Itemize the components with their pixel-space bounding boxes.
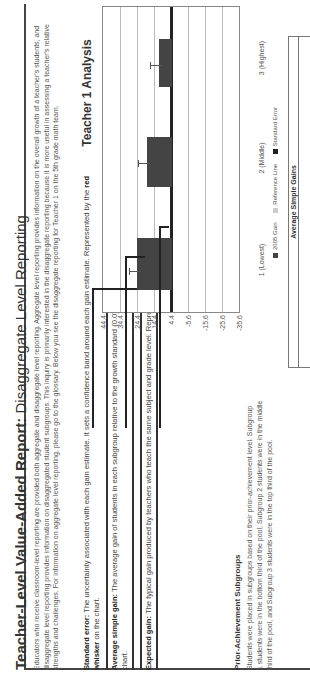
legend-label: 2005 Gain xyxy=(272,222,278,250)
bar-middle xyxy=(147,137,172,187)
arrow-average-gain xyxy=(125,258,127,428)
whisker-highest xyxy=(150,65,162,66)
whisker-lowest xyxy=(129,271,141,272)
arrow-average-gain-vertical xyxy=(125,256,145,258)
legend-label: Reference Line xyxy=(272,164,278,205)
whisker-cap xyxy=(129,268,130,275)
legend-swatch xyxy=(273,149,278,154)
definition-end: on the chart. xyxy=(92,597,101,641)
chart-legend: 2005 Gain Reference Line Standard Error xyxy=(272,99,278,258)
arrow-expected-gain-vertical xyxy=(159,226,169,228)
y-tick: 44.4 xyxy=(100,315,107,350)
y-tick: 14.4 xyxy=(151,315,158,350)
title-bold: Teacher-Level Value-Added Report: xyxy=(12,418,29,670)
gridline xyxy=(222,7,223,312)
legend-reference: Reference Line xyxy=(272,164,278,213)
arrow-standard-error-vertical xyxy=(92,288,137,290)
y-tick: 24.4 xyxy=(134,315,141,350)
y-tick: -15.6 xyxy=(202,315,209,350)
x-label-highest: 3 (Highest) xyxy=(258,28,265,88)
y-tick: -25.6 xyxy=(219,315,226,350)
whisker-cap xyxy=(138,160,139,167)
term: Average simple gain: xyxy=(110,594,119,670)
gridline xyxy=(205,7,206,312)
term: Standard error: xyxy=(82,615,91,670)
legend-stderr: Standard Error xyxy=(272,107,278,154)
bar-lowest xyxy=(137,238,172,290)
y-tick: 34.4 xyxy=(117,315,124,350)
title-regular: Disaggregate Level Reporting xyxy=(12,215,29,418)
rotated-page: Teacher-Level Value-Added Report: Disagg… xyxy=(0,0,310,678)
prior-achievement-title: Prior-Achievement Subgroups xyxy=(233,554,242,670)
page-title: Teacher-Level Value-Added Report: Disagg… xyxy=(12,215,29,670)
arrow-expected-gain xyxy=(159,228,161,428)
whisker-middle xyxy=(138,163,150,164)
chart-plot-area xyxy=(102,6,240,313)
whisker-cap xyxy=(150,62,151,69)
intro-paragraph: Educators who receive classroom-level re… xyxy=(32,15,61,670)
y-tick: -35.6 xyxy=(236,315,243,350)
gridline xyxy=(120,7,121,312)
chart-title: Teacher 1 Analysis xyxy=(80,13,94,173)
y-tick: -5.6 xyxy=(185,315,192,350)
table-title: Average Simple Gains xyxy=(289,37,299,367)
bar-highest xyxy=(159,39,172,87)
definition: The uncertainty associated with each gai… xyxy=(82,188,91,615)
legend-swatch xyxy=(273,208,278,213)
legend-swatch xyxy=(273,253,278,258)
legend-gain: 2005 Gain xyxy=(272,222,278,258)
arrow-standard-error xyxy=(92,290,94,428)
x-label-middle: 2 (Middle) xyxy=(258,128,265,188)
prior-achievement-text: Students were placed in subgroups based … xyxy=(245,400,275,670)
gridline xyxy=(188,7,189,312)
x-label-lowest: 1 (Lowest) xyxy=(258,230,265,290)
average-simple-gains-table: Average Simple Gains xyxy=(288,36,310,368)
y-tick: 4.4 xyxy=(168,315,175,350)
term: Expected gain: xyxy=(144,616,153,670)
legend-label: Standard Error xyxy=(272,107,278,146)
